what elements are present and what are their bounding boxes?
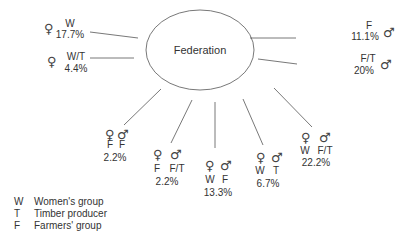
- svg-text:T: T: [273, 165, 279, 176]
- svg-text:F/T: F/T: [361, 53, 376, 64]
- male-icon: ♂: [383, 25, 395, 40]
- female-icon: ♀: [153, 147, 163, 162]
- center-label: Federation: [174, 44, 227, 56]
- svg-text:F: F: [366, 20, 372, 31]
- male-icon: ♂: [271, 150, 283, 165]
- svg-text:F: F: [154, 163, 160, 174]
- legend: W Women's group T Timber producer F Farm…: [14, 196, 107, 232]
- svg-text:F/T: F/T: [170, 163, 185, 174]
- svg-text:W/T: W/T: [67, 51, 85, 62]
- svg-text:F: F: [119, 139, 125, 150]
- svg-text:6.7%: 6.7%: [257, 178, 280, 189]
- svg-text:W: W: [255, 165, 265, 176]
- svg-text:22.2%: 22.2%: [302, 157, 330, 168]
- female-icon: ♀: [205, 158, 215, 173]
- svg-text:F/T: F/T: [318, 145, 333, 156]
- svg-text:F: F: [107, 139, 113, 150]
- node-wt: ♀ W/T 4.4%: [47, 51, 88, 74]
- legend-item-t: T Timber producer: [14, 208, 107, 220]
- svg-text:13.3%: 13.3%: [204, 187, 232, 198]
- female-icon: ♀: [256, 150, 266, 165]
- female-icon: ♀: [301, 130, 311, 145]
- male-icon: ♂: [380, 57, 392, 72]
- svg-text:4.4%: 4.4%: [65, 63, 88, 74]
- svg-text:11.1%: 11.1%: [351, 31, 379, 42]
- node-f-f: ♀ ♂ F F 2.2%: [104, 127, 129, 163]
- svg-text:W: W: [300, 145, 310, 156]
- male-icon: ♂: [220, 158, 232, 173]
- node-w-t: ♀ ♂ W T 6.7%: [255, 150, 282, 189]
- svg-text:20%: 20%: [354, 65, 374, 76]
- female-icon: ♀: [47, 54, 57, 69]
- svg-text:W: W: [65, 18, 75, 29]
- legend-item-f: F Farmers' group: [14, 220, 107, 232]
- node-f-ft: ♀ ♂ F F/T 2.2%: [153, 147, 185, 187]
- node-w-ft: ♀ ♂ W F/T 22.2%: [300, 130, 332, 168]
- svg-text:2.2%: 2.2%: [104, 152, 127, 163]
- male-icon: ♂: [170, 147, 182, 162]
- legend-item-w: W Women's group: [14, 196, 107, 208]
- node-ft: F/T 20% ♂: [354, 53, 392, 76]
- male-icon: ♂: [319, 130, 331, 145]
- node-w-f: ♀ ♂ W F 13.3%: [204, 158, 232, 198]
- svg-text:W: W: [205, 174, 215, 185]
- node-w: ♀ W 17.7%: [44, 18, 84, 40]
- svg-text:2.2%: 2.2%: [156, 176, 179, 187]
- svg-text:17.7%: 17.7%: [56, 29, 84, 40]
- node-f: F 11.1% ♂: [351, 20, 394, 42]
- female-icon: ♀: [44, 21, 54, 36]
- svg-text:F: F: [222, 174, 228, 185]
